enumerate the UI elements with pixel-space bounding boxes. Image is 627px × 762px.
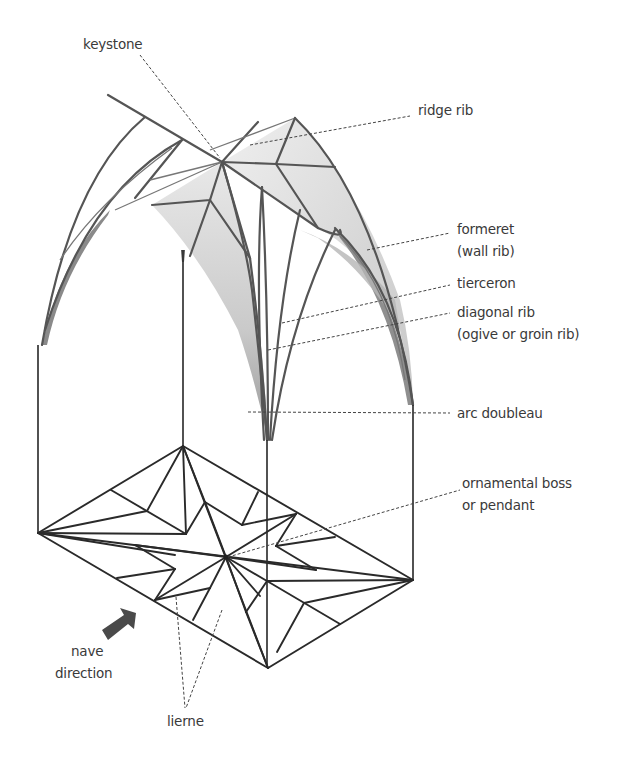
label-diagonal-rib: diagonal rib xyxy=(457,302,535,323)
label-diagonal-rib-sub: (ogive or groin rib) xyxy=(457,324,579,345)
label-formeret: formeret xyxy=(457,219,514,240)
label-ornamental-boss-sub: or pendant xyxy=(462,495,534,516)
floor-plan xyxy=(38,446,413,668)
label-ridge-rib: ridge rib xyxy=(418,100,473,121)
boss-dot xyxy=(224,555,229,560)
label-nave: nave xyxy=(71,641,103,662)
label-arc-doubleau: arc doubleau xyxy=(457,403,543,424)
label-nave-direction: direction xyxy=(55,663,112,684)
columns xyxy=(38,250,413,668)
label-tierceron: tierceron xyxy=(457,273,516,294)
label-ornamental-boss: ornamental boss xyxy=(462,473,572,494)
label-lierne: lierne xyxy=(167,711,204,732)
label-formeret-sub: (wall rib) xyxy=(457,241,515,262)
nave-direction-arrow-icon xyxy=(102,608,136,640)
label-keystone: keystone xyxy=(83,34,142,55)
